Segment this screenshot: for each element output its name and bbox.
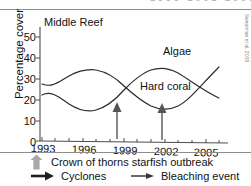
x-axis-line xyxy=(40,141,228,143)
legend-label-crown-of-thorns: Crown of thorns starfish outbreak xyxy=(51,156,213,168)
legend-item-cyclones: Cyclones xyxy=(30,170,106,182)
chart-legend: Crown of thorns starfish outbreak Cyclon… xyxy=(0,153,251,186)
legend-item-crown-of-thorns: Crown of thorns starfish outbreak xyxy=(30,154,213,170)
y-axis-ticks xyxy=(36,37,40,141)
source-credit: Sweatman et al. 2008 xyxy=(244,14,250,62)
legend-label-bleaching: Bleaching event xyxy=(161,170,239,182)
legend-item-bleaching: Bleaching event xyxy=(130,170,239,182)
cropped-year-labels: 1999 2002 2005 xyxy=(150,0,251,3)
top-cropped-band: 1999 2002 2005 xyxy=(0,0,251,9)
series-line-algae xyxy=(42,68,219,111)
crown-of-thorns-arrow-icon xyxy=(30,154,43,170)
cyclone-arrow-icon xyxy=(30,170,56,182)
legend-label-cyclones: Cyclones xyxy=(61,170,106,182)
reef-cover-figure: 1999 2002 2005 Percentage cover Middle R… xyxy=(0,0,251,186)
chart-panel: Percentage cover Middle Reef 50 40 30 20… xyxy=(0,10,251,152)
bleaching-arrow-icon xyxy=(130,170,156,182)
plot-area xyxy=(0,10,251,152)
annotation-arrow-cot-1999 xyxy=(113,102,122,139)
